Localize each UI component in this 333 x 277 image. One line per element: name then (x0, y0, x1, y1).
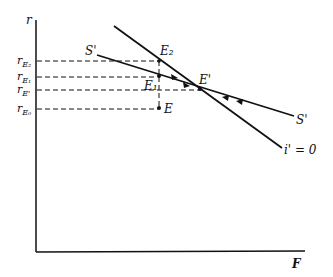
label-Eprime: E' (198, 73, 211, 87)
point-E (157, 106, 161, 110)
label-s-prime-left: S' (85, 44, 97, 58)
point-E1 (157, 74, 161, 78)
y-axis-label: r (26, 13, 33, 27)
label-E1: E₁ (143, 79, 158, 93)
label-i-prime-zero: i' = 0 (284, 143, 317, 157)
point-E2 (157, 59, 161, 63)
tick-label-rE0: rE₀ (17, 102, 32, 117)
label-E: E (163, 102, 173, 116)
x-axis-label: F (291, 257, 302, 271)
arrow-icon (222, 95, 229, 101)
tick-label-rE2: rE₂ (17, 54, 31, 69)
s-prime-line (97, 55, 294, 116)
y-tick-labels: rE₂ rE₁ rE' rE₀ (17, 54, 32, 117)
point-Eprime (198, 87, 202, 91)
label-s-prime-right: S' (296, 113, 308, 127)
label-E2: E₂ (159, 44, 174, 58)
tick-label-rEprime: rE' (17, 83, 30, 98)
x-axis (36, 251, 305, 252)
guide-lines (37, 61, 200, 109)
is-lm-diagram: r F rE₂ rE₁ rE' rE₀ E₂ E₁ E' E S' S' i' … (0, 0, 333, 277)
